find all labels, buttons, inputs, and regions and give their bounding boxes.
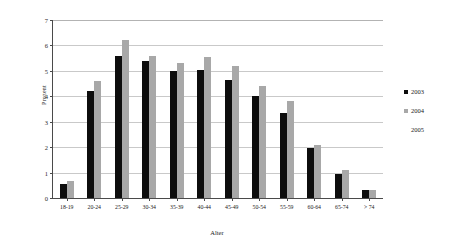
bar-group: > 74 [356, 20, 384, 198]
x-axis-tick-label: 25-29 [115, 204, 129, 210]
no-marker-icon [404, 128, 408, 132]
x-axis-tick-mark [94, 198, 95, 201]
legend-item-2003[interactable]: 2003 [404, 82, 462, 101]
x-axis-tick-mark [149, 198, 150, 201]
bar-2004-2024 [94, 81, 101, 198]
x-axis-tick-label: 60-64 [307, 204, 321, 210]
bar-group: 50-54 [246, 20, 274, 198]
legend-item-2004[interactable]: 2004 [404, 101, 462, 120]
x-axis-tick-label: 40-44 [197, 204, 211, 210]
y-axis-tick-label: 4 [45, 93, 48, 100]
x-axis-tick-label: 18-19 [60, 204, 74, 210]
x-axis-tick-mark [369, 198, 370, 201]
bar-2003-2024 [87, 91, 94, 198]
x-axis-tick-mark [287, 198, 288, 201]
x-axis-tick-mark [342, 198, 343, 201]
bar-2003-6574 [335, 174, 342, 198]
bar-group: 55-59 [273, 20, 301, 198]
plot-area: 01234567 18-1920-2425-2930-3435-3940-444… [52, 20, 383, 199]
bar-2004-5054 [259, 86, 266, 198]
x-axis-tick-mark [232, 198, 233, 201]
y-axis-tick-label: 7 [45, 17, 48, 24]
bars-layer: 18-1920-2425-2930-3435-3940-4445-4950-54… [53, 20, 383, 198]
bar-chart: Prozent 01234567 18-1920-2425-2930-3435-… [0, 0, 466, 252]
bar-2003-5559 [280, 113, 287, 198]
bar-2003-74 [362, 190, 369, 198]
bar-2004-2529 [122, 40, 129, 198]
bar-2003-4044 [197, 70, 204, 198]
x-axis-tick-label: 30-34 [142, 204, 156, 210]
y-axis-tick-label: 0 [45, 195, 48, 202]
bar-group: 30-34 [136, 20, 164, 198]
filled-gray-square-icon [404, 109, 408, 113]
y-axis-tick-label: 5 [45, 67, 48, 74]
bar-group: 65-74 [328, 20, 356, 198]
y-axis-tick-label: 6 [45, 42, 48, 49]
x-axis-tick-label: 35-39 [170, 204, 184, 210]
legend-item-label: 2003 [411, 88, 424, 95]
bar-2004-3034 [149, 56, 156, 198]
x-axis-title: Alter [52, 229, 382, 236]
x-axis-tick-label: 20-24 [87, 204, 101, 210]
bar-2003-6064 [307, 148, 314, 198]
bar-2004-6064 [314, 145, 321, 198]
chart-legend: 200320042005 [404, 82, 462, 139]
x-axis-tick-mark [259, 198, 260, 201]
x-axis-tick-label: > 74 [364, 204, 375, 210]
legend-item-label: 2005 [411, 126, 424, 133]
bar-group: 25-29 [108, 20, 136, 198]
legend-item-label: 2004 [411, 107, 424, 114]
y-axis-tick-label: 3 [45, 118, 48, 125]
x-axis-tick-label: 65-74 [335, 204, 349, 210]
y-axis-tick-label: 2 [45, 144, 48, 151]
bar-group: 35-39 [163, 20, 191, 198]
x-axis-tick-mark [177, 198, 178, 201]
bar-2003-2529 [115, 56, 122, 198]
y-axis-tick-mark [50, 198, 53, 199]
bar-2003-3539 [170, 71, 177, 198]
bar-2003-1819 [60, 184, 67, 198]
bar-2004-74 [369, 190, 376, 198]
bar-2004-1819 [67, 181, 74, 198]
bar-2004-3539 [177, 63, 184, 198]
bar-2004-4044 [204, 57, 211, 198]
x-axis-tick-mark [67, 198, 68, 201]
filled-black-square-icon [404, 90, 408, 94]
bar-group: 45-49 [218, 20, 246, 198]
bar-2004-5559 [287, 101, 294, 198]
bar-2003-5054 [252, 96, 259, 198]
bar-2003-3034 [142, 61, 149, 198]
x-axis-tick-label: 55-59 [280, 204, 294, 210]
legend-item-2005[interactable]: 2005 [404, 120, 462, 139]
bar-2004-4549 [232, 66, 239, 198]
x-axis-tick-mark [122, 198, 123, 201]
x-axis-tick-mark [314, 198, 315, 201]
x-axis-tick-label: 45-49 [225, 204, 239, 210]
bar-group: 20-24 [81, 20, 109, 198]
x-axis-tick-label: 50-54 [252, 204, 266, 210]
x-axis-tick-mark [204, 198, 205, 201]
bar-group: 18-19 [53, 20, 81, 198]
bar-group: 40-44 [191, 20, 219, 198]
bar-group: 60-64 [301, 20, 329, 198]
y-axis-tick-label: 1 [45, 169, 48, 176]
bar-2003-4549 [225, 80, 232, 198]
bar-2004-6574 [342, 170, 349, 198]
